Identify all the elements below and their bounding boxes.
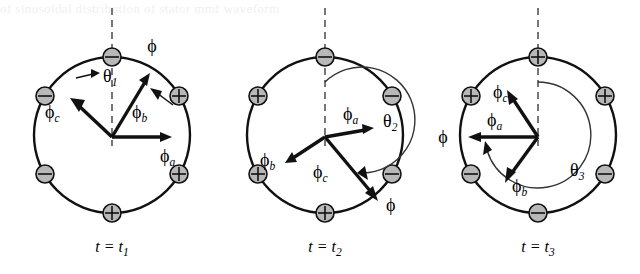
pole-upper-right-1 — [170, 87, 188, 105]
vector-label-phi-a-1: ϕa — [160, 146, 175, 168]
vector-label-phi-b-1: ϕb — [132, 102, 147, 124]
vector-label-phi-a-2: ϕa — [343, 104, 358, 126]
vector-label-phi-a-3: ϕa — [487, 110, 502, 132]
pole-bottom-2 — [316, 204, 334, 222]
vector-label-phi-c-2: ϕc — [313, 162, 328, 184]
pole-top-3 — [529, 48, 547, 66]
vector-phi-b-1 — [112, 73, 150, 137]
vector-phi-b-2 — [285, 137, 325, 163]
pole-lower-right-3 — [596, 165, 614, 183]
vector-label-phi-b-3: ϕb — [512, 176, 527, 198]
pole-top-2 — [316, 48, 334, 66]
theta-indicator-arrow-1 — [76, 69, 100, 78]
panel-1: ϕ θ1 ϕb ϕc ϕa t = t1 — [34, 8, 190, 258]
three-phase-rotating-field-figure: ϕ θ1 ϕb ϕc ϕa t = t1 — [0, 0, 640, 274]
vector-phi-a-2 — [325, 124, 374, 137]
time-label-2: t = t2 — [308, 238, 342, 258]
pole-top-1 — [103, 48, 121, 66]
rotation-label-3: ϕ — [438, 127, 447, 147]
pole-upper-right-3 — [596, 87, 614, 105]
vector-phi-c-2 — [325, 137, 378, 201]
rotation-label-1: ϕ — [147, 36, 156, 56]
rotation-label-2: ϕ — [386, 195, 395, 215]
vector-phi-b-3 — [505, 137, 538, 183]
pole-lower-left-1 — [36, 165, 54, 183]
vector-phi-a-1 — [112, 132, 172, 142]
pole-upper-left-3 — [462, 87, 480, 105]
panel-2: ϕa ϕb ϕc θ2 ϕ t = t2 — [247, 8, 415, 258]
angle-label-2: θ2 — [383, 111, 398, 133]
vector-phi-c-1 — [70, 98, 112, 137]
time-label-1: t = t1 — [95, 238, 128, 258]
pole-upper-right-2 — [383, 87, 401, 105]
time-label-3: t = t3 — [521, 238, 555, 258]
vector-label-phi-c-3: ϕc — [493, 82, 508, 104]
angle-label-1: θ1 — [103, 66, 117, 88]
panel-3: ϕ ϕc ϕa ϕb θ3 t = t3 — [438, 8, 616, 258]
vector-label-phi-c-1: ϕc — [45, 102, 60, 124]
pole-bottom-1 — [103, 204, 121, 222]
vector-phi-c-3 — [507, 90, 538, 137]
vector-label-phi-b-2: ϕb — [260, 150, 275, 172]
vector-phi-a-3 — [468, 132, 538, 142]
pole-upper-left-2 — [249, 87, 267, 105]
pole-bottom-3 — [529, 204, 547, 222]
pole-lower-left-3 — [462, 165, 480, 183]
